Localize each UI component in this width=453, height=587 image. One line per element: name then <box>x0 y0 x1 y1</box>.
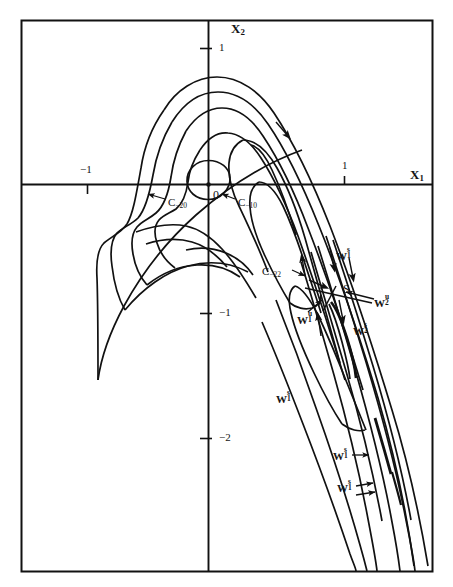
inner-arc-curve <box>155 133 345 380</box>
y-tick-label-minus-2: −2 <box>219 432 231 443</box>
caption-strip <box>22 578 432 585</box>
label-w1s-lower: Ws1 <box>333 449 350 462</box>
x-tick-label-1: 1 <box>342 160 348 171</box>
x-axis-label: X1 <box>410 168 424 181</box>
label-saddle-s: S <box>343 283 350 295</box>
label-w2u: Wu2 <box>374 296 391 309</box>
origin-label: 0 <box>213 189 219 201</box>
label-w1s-mid: Ws1 <box>276 392 293 405</box>
lower-left-sweep <box>125 225 256 310</box>
label-w1u: Wu1 <box>297 313 314 326</box>
x-tick-label-minus-1: −1 <box>80 164 92 175</box>
y-tick-label-1: 1 <box>219 42 225 53</box>
label-c-minus-22: C−22 <box>262 266 281 277</box>
origin-point <box>206 182 211 187</box>
flow-direction-arrows <box>276 122 353 336</box>
y-tick-label-minus-1: −1 <box>219 307 231 318</box>
label-w2s: Ws2 <box>353 324 370 337</box>
plot-frame <box>22 21 433 572</box>
label-c-minus-10: C−10 <box>238 197 257 208</box>
axis-lines <box>22 21 432 571</box>
label-w1s-bottom: Ws1 <box>337 481 354 494</box>
phase-portrait-figure: X2 X1 1 −1 −2 −1 1 0 C−20 C−10 C−22 Ws1 … <box>0 0 453 587</box>
y-axis-label: X2 <box>231 22 245 35</box>
label-w1s-upper: Ws1 <box>336 249 353 262</box>
outer-arc-curve <box>97 77 428 566</box>
label-c-minus-20: C−20 <box>168 197 187 208</box>
